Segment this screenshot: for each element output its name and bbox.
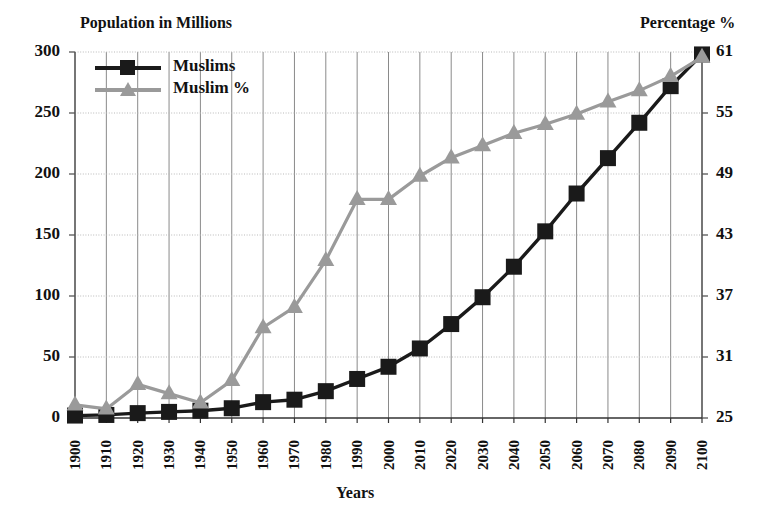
- legend-marker-square-icon: [120, 60, 135, 75]
- data-point-square-icon: [475, 289, 491, 305]
- data-point-square-icon: [161, 404, 177, 420]
- data-point-square-icon: [506, 259, 522, 275]
- data-point-square-icon: [600, 150, 616, 166]
- data-point-square-icon: [412, 340, 428, 356]
- data-point-square-icon: [569, 186, 585, 202]
- data-point-square-icon: [130, 405, 146, 421]
- data-point-square-icon: [286, 392, 302, 408]
- chart-legend: Muslims Muslim %: [95, 57, 275, 105]
- data-point-triangle-icon: [255, 318, 272, 333]
- legend-label-muslims: Muslims: [173, 56, 235, 76]
- data-point-triangle-icon: [67, 396, 84, 411]
- data-point-square-icon: [537, 223, 553, 239]
- data-point-square-icon: [381, 359, 397, 375]
- chart-figure: Population in Millions Percentage % Year…: [0, 0, 766, 518]
- data-point-square-icon: [318, 383, 334, 399]
- legend-marker-triangle-icon: [120, 82, 136, 96]
- legend-item-muslims: Muslims: [95, 57, 275, 79]
- data-point-square-icon: [631, 115, 647, 131]
- legend-label-muslim-percent: Muslim %: [173, 78, 250, 98]
- legend-item-muslim-percent: Muslim %: [95, 79, 275, 101]
- data-point-triangle-icon: [317, 251, 334, 266]
- data-point-triangle-icon: [380, 190, 397, 205]
- data-point-square-icon: [349, 371, 365, 387]
- data-point-triangle-icon: [349, 190, 366, 205]
- data-point-square-icon: [224, 400, 240, 416]
- data-point-triangle-icon: [129, 375, 146, 390]
- data-point-square-icon: [255, 394, 271, 410]
- data-point-square-icon: [443, 316, 459, 332]
